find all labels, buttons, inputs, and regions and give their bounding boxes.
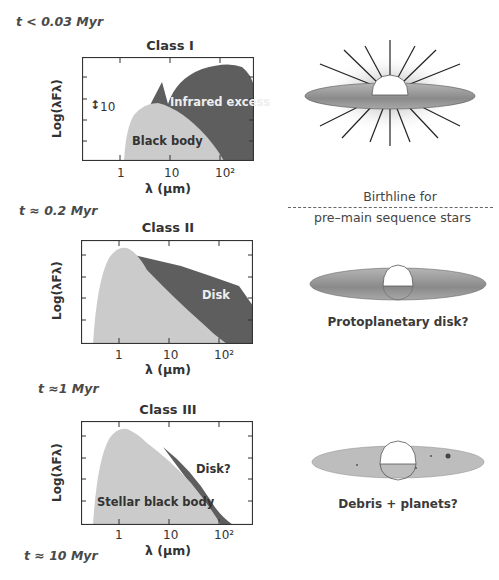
class1-ylabel: Log(λFλ) xyxy=(50,79,64,138)
class2-title: Class II xyxy=(108,220,228,235)
class1-xtick-100: 10² xyxy=(215,166,235,180)
class2-xlabel: λ (μm) xyxy=(145,362,191,377)
class0-protostar-illustration xyxy=(290,38,490,148)
class2-xtick-1: 1 xyxy=(115,348,123,362)
class2-disk-illustration xyxy=(298,258,498,308)
class1-title: Class I xyxy=(110,38,230,53)
class3-illustration-caption: Debris + planets? xyxy=(298,497,498,511)
class3-disk-label: Disk? xyxy=(196,462,231,476)
class2-disk-label: Disk xyxy=(202,288,230,302)
birthline-dashed-divider xyxy=(288,207,493,208)
class3-debris-illustration xyxy=(298,438,498,488)
class1-scale-label: 10 xyxy=(100,100,115,114)
class3-stellar-blackbody-label: Stellar black body xyxy=(97,495,214,509)
class3-title: Class III xyxy=(108,402,228,417)
class3-xlabel: λ (μm) xyxy=(145,543,191,558)
time-label-class1: t < 0.03 Myr xyxy=(16,14,103,29)
class3-xtick-100: 10² xyxy=(214,528,234,542)
class1-xtick-10: 10 xyxy=(164,166,179,180)
birthline-top-label: Birthline for xyxy=(345,189,455,204)
class2-xtick-100: 10² xyxy=(214,348,234,362)
class2-illustration-caption: Protoplanetary disk? xyxy=(298,315,498,329)
time-label-class2: t ≈ 0.2 Myr xyxy=(19,203,97,218)
class1-scale-arrow-icon: ↕ xyxy=(90,98,100,112)
time-label-class3: t ≈1 Myr xyxy=(38,381,99,396)
class2-xtick-10: 10 xyxy=(163,348,178,362)
class3-xtick-1: 1 xyxy=(115,528,123,542)
birthline-bottom-label: pre–main sequence stars xyxy=(290,210,495,225)
class1-xlabel: λ (μm) xyxy=(145,181,191,196)
class3-xtick-10: 10 xyxy=(163,528,178,542)
class1-xtick-1: 1 xyxy=(117,166,125,180)
class1-blackbody-label: Black body xyxy=(132,134,203,148)
time-label-final: t ≈ 10 Myr xyxy=(24,548,98,563)
class3-ylabel: Log(λFλ) xyxy=(50,443,64,502)
class1-infrared-label: Infrared excess xyxy=(170,95,270,109)
class2-ylabel: Log(λFλ) xyxy=(50,261,64,320)
